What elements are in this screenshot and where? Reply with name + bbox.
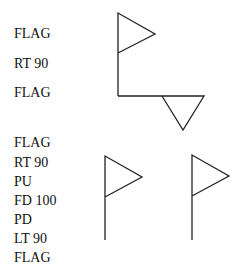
turtle-drawing: [0, 0, 239, 274]
flag-icon-rotated: [118, 96, 204, 130]
flag-icon-bottom-left: [105, 156, 142, 240]
flag-icon-bottom-right: [192, 155, 229, 240]
flag-icon-top: [118, 13, 155, 96]
